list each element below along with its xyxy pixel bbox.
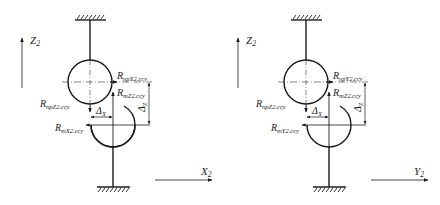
svg-text:X2: X2 [200,165,212,179]
bottom-fixed-support-icon [97,187,130,192]
label-r-m-horizontal: RmX2.ccy [54,122,83,134]
label-delta-x: ΔX [95,105,107,117]
label-r-np-vertical: RnpZ2.ccy [39,98,70,110]
label-r-m-horizontal: RmY2.ccy [270,122,299,134]
svg-text:Y2: Y2 [414,165,424,179]
top-fixed-support-icon [75,15,106,60]
label-r-m-vertical: RmZ2.ccy [116,87,145,99]
left-diagram: Z2 X2 RnpX2.ccy RnpZ2.ccy RmZ2.ccy [22,15,212,192]
diagram-canvas: Z2 X2 RnpX2.ccy RnpZ2.ccy RmZ2.ccy [0,0,440,205]
label-delta-z: ΔZ [352,102,364,113]
z-axis-left: Z2 [22,34,40,88]
right-diagram: Z2 Y2 RnpY2.ccy RnpZ2.ccy RmZ2.ccy RmY2.… [238,15,428,192]
label-delta-z: ΔZ [136,102,148,113]
svg-text:Z2: Z2 [30,34,40,48]
label-delta-x: ΔX [311,105,323,117]
svg-text:Z2: Z2 [246,34,256,48]
y-axis-right: Y2 [371,165,428,180]
z-axis-right: Z2 [238,34,256,88]
top-fixed-support-icon [291,15,322,60]
x-axis-left: X2 [155,165,212,180]
bottom-fixed-support-icon [313,187,346,192]
label-r-np-vertical: RnpZ2.ccy [255,98,286,110]
label-r-np-horizontal: RnpY2.ccy [332,70,363,82]
label-r-np-horizontal: RnpX2.ccy [116,70,147,82]
label-r-m-vertical: RmZ2.ccy [332,87,361,99]
